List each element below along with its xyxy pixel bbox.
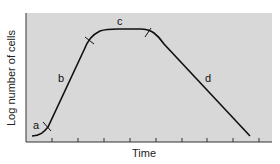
phase-label-b: b xyxy=(58,72,64,84)
y-axis-label: Log number of cells xyxy=(3,14,19,142)
phase-label-d: d xyxy=(205,72,211,84)
phase-label-a: a xyxy=(33,119,39,131)
phase-label-c: c xyxy=(117,15,123,27)
x-axis-label: Time xyxy=(132,147,156,159)
growth-curve-chart xyxy=(0,0,280,164)
